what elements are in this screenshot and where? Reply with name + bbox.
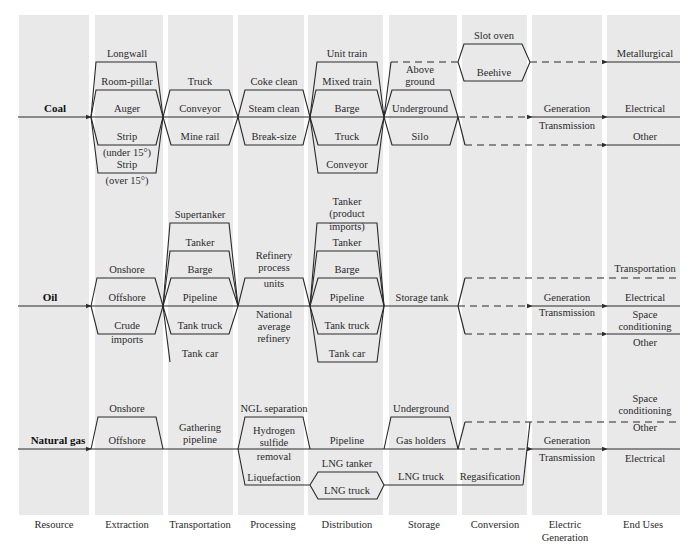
stage-label-storage: Storage: [408, 519, 440, 530]
gas-electric-label: Transmission: [539, 452, 596, 463]
oil-distribution-label: Tanker: [333, 196, 363, 207]
oil-processing-label: average: [258, 321, 291, 332]
oil-distribution-label: imports): [329, 221, 365, 233]
coal-extraction-label: Strip: [117, 159, 137, 170]
oil-distribution-label: Pipeline: [330, 292, 365, 303]
oil-storage-label: Storage tank: [396, 292, 450, 303]
coal-extraction-label: (under 15°): [103, 147, 152, 159]
gas-extraction-label: Onshore: [109, 403, 145, 414]
oil-extraction-label: Crude: [114, 320, 140, 331]
gas-distribution-label: LNG tanker: [322, 458, 373, 469]
coal-conversion-label: Slot oven: [474, 30, 515, 41]
oil-transport-label: Pipeline: [183, 292, 218, 303]
gas-storage-label: Gas holders: [396, 435, 446, 446]
coal-end-use-label: Electrical: [625, 103, 665, 114]
oil-distribution-label: (product: [329, 208, 365, 220]
coal-end-use-label: Other: [633, 131, 657, 142]
oil-transport-label: Supertanker: [175, 209, 226, 220]
coal-conversion-label: Beehive: [477, 67, 512, 78]
coal-end-use-label: Metallurgical: [617, 48, 673, 59]
gas-transport-label: Gathering: [179, 422, 222, 433]
oil-extraction-label: Offshore: [108, 292, 145, 303]
gas-end-use-label: Other: [633, 422, 657, 433]
resource-coal: Coal: [44, 102, 66, 114]
oil-distribution-label: Tanker: [333, 237, 363, 248]
coal-storage-label: Above: [406, 64, 434, 75]
resource-natural-gas: Natural gas: [31, 434, 86, 446]
gas-conversion-label: Regasification: [460, 471, 521, 482]
gas-storage-label: Underground: [393, 403, 450, 414]
coal-distribution-label: Unit train: [327, 48, 368, 59]
gas-extraction-label: Offshore: [108, 435, 145, 446]
stage-label-electric: Electric: [549, 519, 582, 530]
stage-label-resource: Resource: [34, 519, 73, 530]
gas-processing-label: sulfide: [260, 437, 289, 448]
gas-transport-label: pipeline: [183, 434, 217, 445]
coal-extraction-label: Longwall: [107, 48, 147, 59]
gas-distribution-label: Pipeline: [330, 435, 365, 446]
oil-extraction-label: Onshore: [109, 264, 145, 275]
gas-processing-label: Hydrogen: [253, 425, 296, 436]
coal-storage-label: Silo: [412, 131, 429, 142]
gas-end-use-label: conditioning: [618, 405, 672, 416]
oil-transport-label: Tank car: [182, 348, 219, 359]
stage-label-transportation: Transportation: [169, 519, 231, 530]
gas-storage-label: LNG truck: [398, 471, 445, 482]
gas-processing-label: removal: [257, 451, 291, 462]
oil-processing-label: units: [264, 278, 284, 289]
gas-distribution-label: LNG truck: [324, 485, 371, 496]
oil-distribution-label: Tank truck: [324, 320, 370, 331]
gas-electric-label: Generation: [544, 435, 591, 446]
oil-processing-label: Refinery: [256, 250, 293, 261]
gas-processing-label: NGL separation: [241, 403, 309, 414]
oil-processing-label: refinery: [257, 333, 291, 344]
oil-end-use-label: Transportation: [614, 263, 676, 274]
resource-oil: Oil: [43, 291, 58, 303]
stage-label-extraction: Extraction: [105, 519, 149, 530]
oil-transport-label: Tanker: [186, 237, 216, 248]
band-conversion: [462, 15, 527, 515]
coal-processing-label: Break-size: [252, 131, 297, 142]
gas-end-use-label: Electrical: [625, 453, 665, 464]
oil-transport-label: Tank truck: [177, 320, 223, 331]
energy-flow-diagram: Coal Longwall Room-pillar Auger Strip (u…: [0, 0, 696, 551]
coal-processing-label: Steam clean: [248, 103, 300, 114]
coal-extraction-label: Auger: [114, 103, 141, 114]
coal-distribution-label: Conveyor: [326, 159, 368, 170]
coal-distribution-label: Truck: [335, 131, 360, 142]
oil-transport-label: Barge: [188, 264, 213, 275]
coal-extraction-label: Strip: [117, 131, 137, 142]
oil-processing-label: process: [258, 262, 290, 273]
coal-distribution-label: Barge: [335, 103, 360, 114]
coal-distribution-label: Mixed train: [322, 76, 372, 87]
oil-end-use-label: Electrical: [625, 292, 665, 303]
coal-extraction-label: (over 15°): [106, 175, 149, 187]
oil-end-use-label: conditioning: [618, 321, 672, 332]
gas-processing-label: Liquefaction: [247, 472, 301, 483]
stage-label-processing: Processing: [250, 519, 296, 530]
oil-distribution-label: Tank car: [329, 348, 366, 359]
oil-electric-label: Transmission: [539, 307, 596, 318]
coal-transport-label: Mine rail: [181, 131, 220, 142]
coal-electric-label: Transmission: [539, 120, 596, 131]
stage-label-electric-sub: Generation: [542, 532, 589, 543]
coal-processing-label: Coke clean: [251, 76, 299, 87]
stage-label-end-uses: End Uses: [623, 519, 663, 530]
stage-labels: Resource Extraction Transportation Proce…: [34, 519, 663, 543]
oil-distribution-label: Barge: [335, 264, 360, 275]
coal-electric-label: Generation: [544, 103, 591, 114]
coal-transport-label: Conveyor: [179, 103, 221, 114]
oil-electric-label: Generation: [544, 292, 591, 303]
stage-label-distribution: Distribution: [322, 519, 374, 530]
coal-storage-label: ground: [405, 76, 435, 87]
coal-storage-label: Underground: [392, 103, 449, 114]
oil-end-use-label: Other: [633, 337, 657, 348]
stage-label-conversion: Conversion: [471, 519, 520, 530]
coal-extraction-label: Room-pillar: [101, 76, 153, 87]
oil-extraction-label: imports: [111, 334, 143, 345]
coal-transport-label: Truck: [188, 76, 213, 87]
oil-end-use-label: Space: [632, 309, 657, 320]
gas-end-use-label: Space: [632, 393, 657, 404]
oil-processing-label: National: [256, 309, 292, 320]
